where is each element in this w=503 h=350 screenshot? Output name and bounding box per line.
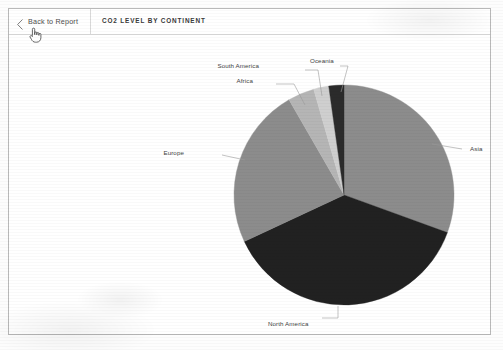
pie-slice-label: Asia: [470, 146, 482, 152]
report-header: Back to Report CO2 LEVEL BY CONTINENT: [9, 9, 490, 35]
pie-slice-label: North America: [268, 321, 309, 327]
pie-slice-label: Oceania: [310, 58, 334, 64]
pie-slice-label: Africa: [9, 78, 253, 84]
back-to-report-button[interactable]: Back to Report: [9, 9, 91, 34]
title-container: CO2 LEVEL BY CONTINENT: [91, 9, 206, 34]
chevron-left-icon: [16, 16, 24, 27]
pie-slices: [234, 85, 454, 305]
leader-line: [322, 306, 338, 318]
page-title: CO2 LEVEL BY CONTINENT: [102, 18, 206, 24]
pie-chart-visual[interactable]: AsiaNorth AmericaEuropeAfricaSouth Ameri…: [9, 35, 490, 334]
report-page: Back to Report CO2 LEVEL BY CONTINENT As…: [0, 0, 503, 350]
back-to-report-label: Back to Report: [28, 18, 78, 25]
pie-slice-label: South America: [9, 63, 259, 69]
pie-slice-label: Europe: [9, 150, 184, 156]
